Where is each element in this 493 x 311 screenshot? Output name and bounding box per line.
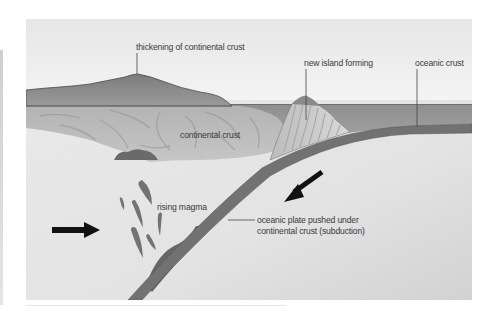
label-oceanic-crust: oceanic crust [415,58,464,68]
label-new-island: new island forming [304,58,373,68]
label-rising-magma: rising magma [157,202,207,212]
label-thickening: thickening of continental crust [136,42,245,52]
label-subduction-line1: oceanic plate pushed under [257,215,359,225]
subduction-diagram: thickening of continental crust new isla… [0,0,493,311]
label-continental-crust: continental crust [180,130,241,140]
label-subduction-line2: continental crust (subduction) [257,226,365,236]
